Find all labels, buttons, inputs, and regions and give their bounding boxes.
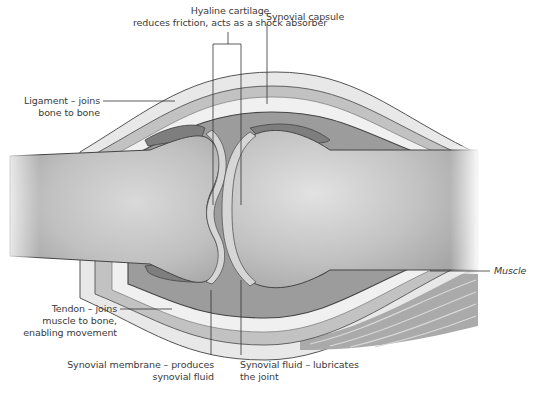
label-synovial-fluid-line2: the joint bbox=[240, 371, 359, 383]
label-synovial-fluid-line1: Synovial fluid – lubricates bbox=[240, 359, 359, 371]
label-synovial-fluid: Synovial fluid – lubricates the joint bbox=[240, 359, 359, 383]
label-ligament-line2: bone to bone bbox=[0, 107, 100, 119]
label-muscle: Muscle bbox=[494, 265, 526, 277]
label-muscle-line1: Muscle bbox=[494, 265, 526, 277]
label-synovial-capsule-line1: Synovial capsule bbox=[266, 11, 344, 23]
label-tendon-line2: muscle to bone, bbox=[0, 315, 117, 327]
label-tendon-line3: enabling movement bbox=[0, 327, 117, 339]
label-ligament: Ligament – joins bone to bone bbox=[0, 95, 100, 119]
label-hyaline-cartilage-line2: reduces friction, acts as a shock absorb… bbox=[60, 17, 400, 29]
right-bone bbox=[222, 130, 480, 287]
label-tendon: Tendon – joins muscle to bone, enabling … bbox=[0, 303, 117, 339]
label-hyaline-cartilage-line1: Hyaline cartilage bbox=[60, 5, 400, 17]
label-synovial-capsule: Synovial capsule bbox=[266, 11, 344, 23]
label-hyaline-cartilage: Hyaline cartilage reduces friction, acts… bbox=[60, 5, 400, 29]
label-ligament-line1: Ligament – joins bbox=[0, 95, 100, 107]
label-synovial-membrane-line1: Synovial membrane – produces bbox=[40, 359, 214, 371]
label-synovial-membrane: Synovial membrane – produces synovial fl… bbox=[40, 359, 214, 383]
left-bone bbox=[0, 130, 226, 284]
label-synovial-membrane-line2: synovial fluid bbox=[40, 371, 214, 383]
label-tendon-line1: Tendon – joins bbox=[0, 303, 117, 315]
